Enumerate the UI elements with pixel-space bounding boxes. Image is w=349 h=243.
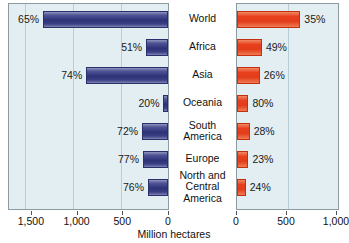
axis-tick-label: 0	[165, 215, 171, 227]
left-bar-value-label: 77%	[118, 152, 139, 167]
left-bar-row: 65%	[9, 6, 168, 34]
axis-tick-label: 1,000	[323, 215, 349, 227]
left-bar-series: 65%51%74%20%72%77%76%	[9, 4, 168, 209]
right-x-axis: 05001,000	[236, 211, 339, 227]
left-bar-row: 74%	[9, 62, 168, 90]
left-bar-row: 51%	[9, 34, 168, 62]
left-bar-value-label: 20%	[138, 96, 159, 111]
right-bar-value-label: 28%	[254, 124, 275, 139]
left-bar	[86, 67, 168, 84]
category-label-column: WorldAfricaAsiaOceaniaSouthAmericaEurope…	[169, 3, 236, 210]
right-bar-value-label: 80%	[252, 96, 273, 111]
right-bar-row: 35%	[237, 6, 338, 34]
right-bar-value-label: 23%	[252, 152, 273, 167]
category-label: Europe	[169, 153, 236, 165]
left-bar	[146, 39, 168, 56]
axis-tick-label: 500	[277, 215, 295, 227]
right-bar-row: 24%	[237, 174, 338, 202]
right-bar-value-label: 26%	[264, 68, 285, 83]
right-bar	[237, 67, 260, 84]
category-label: Oceania	[169, 97, 236, 109]
left-bar-row: 76%	[9, 174, 168, 202]
right-bar-row: 26%	[237, 62, 338, 90]
right-bar	[237, 123, 250, 140]
category-label: Asia	[169, 69, 236, 81]
right-bar-value-label: 35%	[304, 12, 325, 27]
left-bar-value-label: 51%	[121, 40, 142, 55]
axis-tick-label: 500	[114, 215, 132, 227]
axis-tick-label: 1,000	[63, 215, 89, 227]
left-bar	[142, 123, 168, 140]
left-bar-value-label: 74%	[61, 68, 82, 83]
x-axis-title: Million hectares	[0, 228, 348, 240]
left-bar-value-label: 65%	[18, 12, 39, 27]
left-bar-row: 72%	[9, 118, 168, 146]
right-bar	[237, 39, 262, 56]
category-label: SouthAmerica	[169, 120, 236, 143]
left-bar	[43, 11, 168, 28]
category-label: North andCentralAmerica	[169, 170, 236, 205]
left-bar	[148, 179, 168, 196]
right-bar-value-label: 49%	[266, 40, 287, 55]
left-bar-value-label: 72%	[117, 124, 138, 139]
left-bar	[143, 151, 168, 168]
category-label: World	[169, 13, 236, 25]
right-bar-row: 49%	[237, 34, 338, 62]
right-bar-row: 80%	[237, 90, 338, 118]
axis-tick-label: 1,500	[18, 215, 44, 227]
right-bar	[237, 95, 248, 112]
right-bar-row: 28%	[237, 118, 338, 146]
right-bar	[237, 151, 248, 168]
left-bar-row: 77%	[9, 146, 168, 174]
left-bar	[163, 95, 168, 112]
axis-tick-label: 0	[233, 215, 239, 227]
left-bar-value-label: 76%	[123, 180, 144, 195]
right-bar-row: 23%	[237, 146, 338, 174]
left-bar-row: 20%	[9, 90, 168, 118]
right-bar-value-label: 24%	[250, 180, 271, 195]
right-bar	[237, 11, 300, 28]
right-bar	[237, 179, 246, 196]
right-bar-series: 35%49%26%80%28%23%24%	[237, 4, 338, 209]
left-x-axis: 1,5001,0005000	[8, 211, 169, 227]
category-label: Africa	[169, 41, 236, 53]
